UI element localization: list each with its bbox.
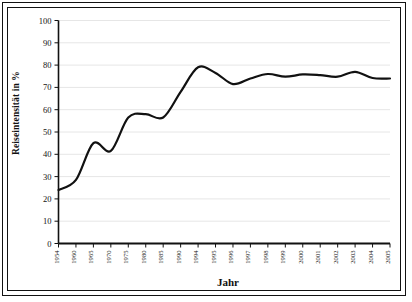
x-tick-label: 1999 [279,250,286,264]
y-tick-label: 40 [43,149,52,159]
x-axis-title: Jahr [58,276,398,288]
gridlines [59,21,391,222]
y-tick-label: 100 [39,16,52,26]
x-axis: 1954196019651970197519801985199019941995… [53,244,392,264]
y-tick-label: 50 [43,127,52,137]
x-tick-label: 1975 [122,250,129,264]
x-tick-label: 2003 [349,250,356,264]
y-tick-label: 80 [43,60,52,70]
x-tick-label: 1990 [175,250,182,264]
data-series-line [59,66,391,190]
x-tick-label: 1970 [105,250,112,264]
y-tick-label: 60 [43,105,52,115]
x-tick-label: 1996 [227,250,234,264]
x-tick-label: 1960 [70,250,77,264]
x-tick-label: 1995 [210,250,217,264]
y-tick-label: 90 [43,38,52,48]
x-tick-label: 2002 [332,251,339,264]
x-tick-label: 2000 [297,250,304,264]
chart-figure: 0102030405060708090100 19541960196519701… [0,0,412,302]
x-tick-label: 2004 [367,250,374,264]
x-tick-label: 1965 [87,250,94,264]
x-tick-label: 1997 [244,250,251,264]
y-axis: 0102030405060708090100 [39,16,59,249]
x-tick-label: 1980 [140,250,147,264]
x-tick-label: 1985 [157,250,164,264]
x-tick-label: 2001 [314,251,321,264]
series-line-reiseintensitaet [59,66,391,190]
y-axis-title: Reiseintensität in % [11,53,21,173]
line-chart-canvas: 0102030405060708090100 19541960196519701… [0,0,412,302]
y-tick-label: 70 [43,82,52,92]
x-tick-label: 1954 [53,250,60,264]
y-tick-label: 0 [47,239,51,249]
y-tick-label: 30 [43,172,52,182]
y-tick-label: 20 [43,194,52,204]
x-tick-label: 1994 [192,250,199,264]
y-tick-label: 10 [43,216,52,226]
x-tick-label: 1998 [262,250,269,264]
x-tick-label: 2005 [384,250,391,264]
